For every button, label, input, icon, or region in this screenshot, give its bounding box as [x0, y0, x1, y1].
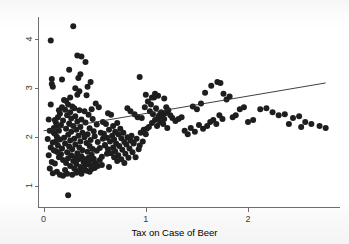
data-point	[64, 171, 70, 177]
data-point	[139, 115, 145, 121]
data-point	[107, 139, 113, 145]
data-point	[290, 115, 296, 121]
data-point	[46, 117, 52, 123]
data-point	[219, 116, 225, 122]
data-point	[48, 101, 54, 107]
data-point	[241, 104, 247, 110]
data-point	[97, 157, 103, 163]
data-point	[79, 147, 85, 153]
data-point	[270, 109, 276, 115]
data-point	[106, 127, 112, 133]
data-point	[286, 121, 292, 127]
data-point	[120, 130, 126, 136]
data-point	[124, 105, 130, 111]
regression-line	[44, 83, 326, 131]
data-point	[125, 155, 131, 161]
data-point	[78, 171, 84, 177]
data-point	[114, 120, 120, 126]
data-point	[233, 112, 239, 118]
data-point	[94, 148, 100, 154]
data-point	[114, 158, 120, 164]
data-point	[84, 92, 90, 98]
data-point	[302, 119, 308, 125]
data-point	[52, 161, 58, 167]
data-point	[220, 91, 226, 97]
data-point	[179, 114, 185, 120]
data-point	[142, 104, 148, 110]
data-point	[83, 120, 89, 126]
data-point	[70, 23, 76, 29]
data-point	[153, 105, 159, 111]
data-point	[148, 101, 154, 107]
data-point	[308, 121, 314, 127]
data-point	[95, 163, 101, 169]
data-point	[276, 112, 282, 118]
data-point	[91, 156, 97, 162]
data-point	[131, 140, 137, 146]
data-point	[194, 106, 200, 112]
data-point	[74, 119, 80, 125]
data-point	[143, 131, 149, 137]
data-point	[133, 154, 139, 160]
data-point	[108, 112, 114, 118]
plot-canvas: 1234 012	[0, 0, 349, 244]
y-axis-ticks: 1234	[25, 36, 39, 188]
data-point	[83, 59, 89, 65]
data-point	[192, 129, 198, 135]
data-point	[73, 127, 79, 133]
scatter-plot-figure: 1234 012 Tax on Case of Beer	[0, 0, 349, 244]
data-point	[296, 113, 302, 119]
data-point	[85, 84, 91, 90]
data-point	[84, 168, 90, 174]
data-point	[66, 67, 72, 73]
data-point	[317, 123, 323, 129]
data-point	[154, 123, 160, 129]
data-point	[282, 111, 288, 117]
data-point	[137, 74, 143, 80]
data-point	[208, 83, 214, 89]
data-point	[103, 121, 109, 127]
data-point	[121, 160, 127, 166]
data-point	[46, 152, 52, 158]
data-point	[245, 119, 251, 125]
data-point	[250, 117, 256, 123]
data-point	[67, 138, 73, 144]
x-axis-title-wrap: Tax on Case of Beer	[0, 222, 349, 240]
data-point	[81, 134, 87, 140]
data-point	[73, 170, 79, 176]
data-point	[78, 54, 84, 60]
data-point	[185, 131, 191, 137]
data-point	[59, 77, 65, 83]
data-point	[50, 84, 56, 90]
data-point	[72, 154, 78, 160]
data-point	[80, 156, 86, 162]
data-point	[86, 112, 92, 118]
data-point	[76, 107, 82, 113]
data-point	[51, 147, 57, 153]
data-point	[144, 126, 150, 132]
data-point	[86, 158, 92, 164]
data-point	[323, 125, 329, 131]
y-tick-label: 3	[25, 85, 35, 90]
data-point	[140, 139, 146, 145]
data-point	[162, 110, 168, 116]
data-point	[257, 106, 263, 112]
data-point	[202, 90, 208, 96]
data-point	[89, 106, 95, 112]
x-axis-title: Tax on Case of Beer	[131, 227, 217, 238]
screenshot-root: 1234 012 Tax on Case of Beer	[0, 0, 349, 244]
data-point	[143, 92, 149, 98]
data-point	[95, 139, 101, 145]
data-point	[62, 107, 68, 113]
data-point	[263, 105, 269, 111]
data-point	[53, 139, 59, 145]
y-tick-label: 4	[25, 36, 35, 41]
data-point	[152, 91, 158, 97]
y-tick-label: 1	[25, 183, 35, 188]
data-point	[164, 125, 170, 131]
regression-line-layer	[44, 83, 326, 131]
data-point	[106, 164, 112, 170]
data-point	[298, 124, 304, 130]
data-point	[61, 97, 67, 103]
data-point	[52, 117, 58, 123]
